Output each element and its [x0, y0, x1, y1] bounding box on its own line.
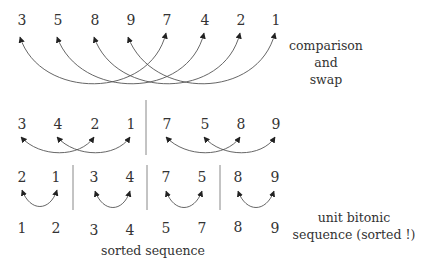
double-arrow-icon: [166, 191, 202, 208]
unit-bitonic-label: unit bitonic sequence (sorted !): [293, 210, 416, 242]
sorted-sequence-label: sorted sequence: [101, 243, 205, 258]
row3-value: 1: [52, 169, 61, 185]
row3-value: 2: [18, 169, 27, 185]
row1-value: 2: [237, 12, 246, 28]
row2-value: 7: [163, 116, 172, 132]
compare-arrows-stage3: [22, 190, 274, 208]
row-input: 3 5 8 9 7 4 2 1: [18, 12, 281, 28]
comparison-label: comparison and swap: [289, 38, 363, 87]
row3-value: 8: [234, 169, 243, 185]
row4-value: 7: [198, 220, 207, 236]
row4-value: 8: [234, 219, 243, 235]
bitonic-sort-diagram: 3 5 8 9 7 4 2 1 comparison and swap 3 4 …: [0, 0, 426, 271]
row2-value: 5: [201, 116, 210, 132]
row4-value: 9: [271, 220, 280, 236]
row1-value: 8: [91, 12, 100, 28]
compare-arrows-stage2: [21, 137, 275, 153]
double-arrow-icon: [21, 137, 94, 153]
row1-value: 1: [272, 12, 281, 28]
unit-bitonic-label-line2: sequence (sorted !): [293, 227, 416, 242]
row4-value: 5: [162, 220, 171, 236]
double-arrow-icon: [204, 137, 275, 153]
row4-value: 3: [90, 222, 99, 238]
double-arrow-icon: [22, 190, 57, 207]
double-arrow-icon: [238, 191, 274, 208]
double-arrow-icon: [20, 33, 166, 84]
row1-value: 5: [54, 12, 63, 28]
row3-value: 9: [271, 169, 280, 185]
row-stage2: 3 4 2 1 7 5 8 9: [18, 116, 281, 132]
row3-value: 5: [198, 169, 207, 185]
row2-value: 1: [127, 116, 136, 132]
row1-value: 3: [18, 12, 27, 28]
row2-value: 8: [237, 116, 246, 132]
comparison-label-line1: comparison: [289, 38, 363, 53]
double-arrow-icon: [166, 137, 240, 153]
row1-value: 7: [163, 12, 172, 28]
row2-value: 2: [91, 116, 100, 132]
unit-bitonic-label-line1: unit bitonic: [318, 210, 391, 225]
double-arrow-icon: [95, 191, 130, 208]
row4-value: 2: [52, 220, 61, 236]
row-sorted: 1 2 3 4 5 7 8 9: [18, 219, 280, 238]
compare-arrows-stage1: [20, 33, 275, 84]
row1-value: 9: [127, 12, 136, 28]
row2-value: 3: [18, 116, 27, 132]
row3-value: 7: [162, 169, 171, 185]
row2-value: 4: [54, 116, 63, 132]
row3-value: 4: [126, 169, 135, 185]
row2-value: 9: [272, 116, 281, 132]
row3-value: 3: [90, 169, 99, 185]
row4-value: 4: [126, 222, 135, 238]
row4-value: 1: [18, 220, 27, 236]
comparison-label-line2: and: [314, 55, 338, 70]
row-stage3: 2 1 3 4 7 5 8 9: [18, 169, 280, 185]
comparison-label-line3: swap: [310, 72, 343, 87]
row1-value: 4: [201, 12, 210, 28]
double-arrow-icon: [57, 137, 130, 153]
